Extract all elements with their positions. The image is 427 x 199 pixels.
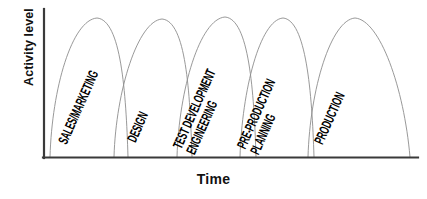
phase-curve-group [50,17,410,157]
activity-level-phase-chart: Activity level Time SALES/MARKETING DESI… [0,0,427,199]
x-axis-title: Time [0,171,427,187]
y-axis-title: Activity level [22,0,36,102]
